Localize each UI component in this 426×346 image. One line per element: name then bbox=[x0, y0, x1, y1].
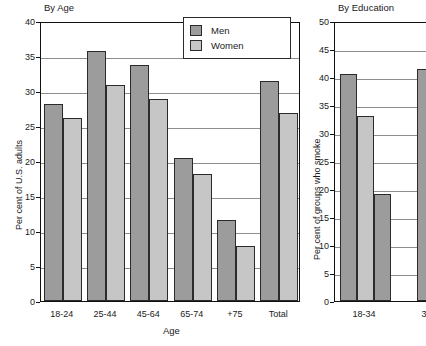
bar-group bbox=[214, 23, 257, 301]
bar-group bbox=[335, 23, 395, 301]
chart-panel-by-education: By Education Per cent of groups who smok… bbox=[302, 0, 426, 346]
chart-panel-by-age: By Age Per cent of U.S. adults 051015202… bbox=[0, 0, 302, 346]
y-tick-mark bbox=[330, 246, 334, 247]
x-tick-label: +75 bbox=[227, 309, 242, 319]
bar-group bbox=[128, 23, 171, 301]
y-tick-mark bbox=[330, 218, 334, 219]
bar bbox=[87, 51, 106, 301]
x-axis-label-by-age: Age bbox=[163, 325, 180, 336]
chart-title-by-education: By Education bbox=[338, 2, 394, 13]
y-tick-mark bbox=[36, 57, 40, 58]
bar bbox=[106, 85, 125, 301]
bar bbox=[340, 74, 357, 301]
bar-group bbox=[395, 23, 426, 301]
figure-root: By Age Per cent of U.S. adults 051015202… bbox=[0, 0, 426, 346]
bar bbox=[260, 81, 279, 302]
bar bbox=[130, 65, 149, 301]
bar-group bbox=[84, 23, 127, 301]
bar-group bbox=[171, 23, 214, 301]
x-tick-label: 18-24 bbox=[50, 309, 73, 319]
x-tick-label: 18-34 bbox=[352, 309, 375, 319]
y-tick-mark bbox=[330, 22, 334, 23]
x-tick-label: 3 bbox=[421, 309, 426, 319]
y-tick-mark bbox=[330, 50, 334, 51]
bar bbox=[63, 118, 82, 301]
x-tick-label: Total bbox=[269, 309, 288, 319]
bar bbox=[193, 174, 212, 301]
legend-swatch-women bbox=[190, 40, 202, 51]
y-tick-mark bbox=[36, 267, 40, 268]
bar bbox=[279, 113, 298, 301]
y-tick-mark bbox=[36, 302, 40, 303]
y-tick-mark bbox=[36, 22, 40, 23]
y-axis-label-by-age: Per cent of U.S. adults bbox=[14, 140, 24, 230]
legend-item-women: Women bbox=[190, 38, 282, 53]
bar bbox=[217, 220, 236, 301]
x-tick-label: 45-64 bbox=[137, 309, 160, 319]
y-tick-mark bbox=[330, 106, 334, 107]
bar bbox=[149, 99, 168, 301]
y-tick-mark bbox=[36, 197, 40, 198]
bars-by-age bbox=[41, 23, 299, 301]
legend-item-men: Men bbox=[190, 23, 282, 38]
y-tick-mark bbox=[330, 78, 334, 79]
legend-swatch-men bbox=[190, 25, 202, 36]
bar-group bbox=[41, 23, 84, 301]
plot-area-by-age bbox=[40, 22, 300, 302]
bar-group bbox=[258, 23, 299, 301]
bars-by-education bbox=[335, 23, 426, 301]
bar bbox=[174, 158, 193, 301]
y-tick-mark bbox=[36, 127, 40, 128]
y-tick-mark bbox=[36, 162, 40, 163]
bar bbox=[417, 69, 426, 301]
plot-area-by-education bbox=[334, 22, 426, 302]
y-tick-mark bbox=[330, 190, 334, 191]
bar bbox=[236, 246, 255, 301]
x-tick-label: 25-44 bbox=[93, 309, 116, 319]
legend-label-women: Women bbox=[211, 40, 244, 51]
y-tick-mark bbox=[330, 162, 334, 163]
y-tick-mark bbox=[36, 232, 40, 233]
x-tick-label: 65-74 bbox=[180, 309, 203, 319]
y-tick-mark bbox=[330, 302, 334, 303]
bar bbox=[44, 104, 63, 301]
bar bbox=[374, 194, 391, 301]
y-tick-mark bbox=[330, 134, 334, 135]
bar bbox=[357, 116, 374, 301]
chart-title-by-age: By Age bbox=[44, 2, 74, 13]
y-tick-mark bbox=[330, 274, 334, 275]
legend-by-age: Men Women bbox=[183, 17, 291, 59]
legend-label-men: Men bbox=[211, 25, 229, 36]
y-tick-mark bbox=[36, 92, 40, 93]
